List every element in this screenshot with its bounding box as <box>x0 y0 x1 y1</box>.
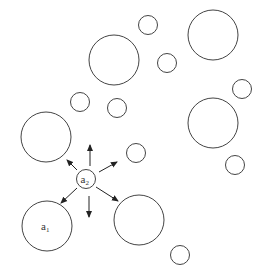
circle-node <box>71 93 90 112</box>
circle-node <box>171 246 190 265</box>
circle-node <box>226 156 245 175</box>
arrow-icon <box>99 162 117 172</box>
arrows-group <box>61 145 118 217</box>
label-a1: a1 <box>41 220 50 235</box>
circle-node <box>233 80 252 99</box>
labels-group: a2a1 <box>41 173 89 235</box>
circle-node <box>188 10 238 60</box>
label-a2: a2 <box>81 173 90 188</box>
arrow-icon <box>96 187 118 201</box>
circle-node <box>89 35 139 85</box>
circle-node <box>139 16 158 35</box>
arrow-icon <box>67 160 77 170</box>
circles-group <box>21 10 252 265</box>
circle-node <box>158 54 177 73</box>
circle-node <box>114 195 164 245</box>
circle-node <box>127 144 146 163</box>
circle-diagram: a2a1 <box>0 0 261 273</box>
circle-node <box>108 99 127 118</box>
circle-node <box>21 112 71 162</box>
arrow-icon <box>61 188 77 203</box>
circle-node <box>188 98 238 148</box>
